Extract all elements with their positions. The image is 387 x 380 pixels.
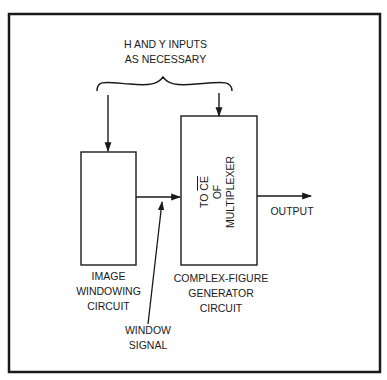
multiplexer-note-line1: TO CE [198, 142, 211, 242]
image-windowing-block [81, 152, 136, 265]
multiplexer-note-line3: MULTIPLEXER [224, 142, 237, 242]
window-signal-line1: WINDOW [118, 323, 178, 338]
generator-line1: COMPLEX-FIGURE [166, 271, 276, 286]
generator-line2: GENERATOR [166, 286, 276, 301]
complex-figure-generator-label: COMPLEX-FIGURE GENERATOR CIRCUIT [166, 271, 276, 316]
multiplexer-note-line2: OF [211, 142, 224, 242]
ce-overlined: CE [198, 176, 210, 191]
top-label-line2: AS NECESSARY [103, 52, 228, 67]
image-windowing-line3: CIRCUIT [66, 299, 151, 314]
top-label: H AND Y INPUTS AS NECESSARY [103, 37, 228, 67]
image-windowing-line2: WINDOWING [66, 284, 151, 299]
window-signal-line2: SIGNAL [118, 338, 178, 353]
image-windowing-line1: IMAGE [66, 269, 151, 284]
image-windowing-label: IMAGE WINDOWING CIRCUIT [66, 269, 151, 314]
window-signal-label: WINDOW SIGNAL [118, 323, 178, 353]
generator-line3: CIRCUIT [166, 301, 276, 316]
outer-frame [9, 14, 380, 372]
multiplexer-note: TO CE OF MULTIPLEXER [198, 142, 240, 242]
curly-brace [97, 77, 232, 91]
output-label: OUTPUT [266, 204, 318, 219]
top-label-line1: H AND Y INPUTS [103, 37, 228, 52]
